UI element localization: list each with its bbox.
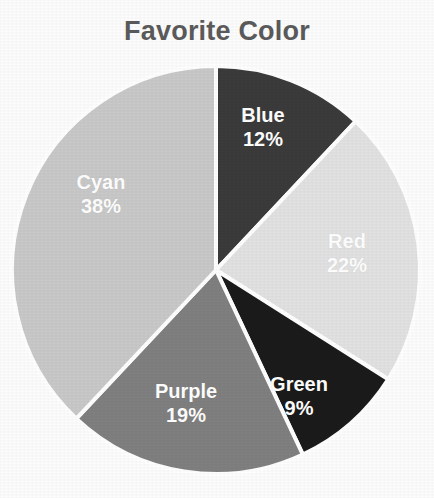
pie-label-cyan: Cyan38%: [77, 171, 126, 218]
pie-label-name: Red: [327, 230, 367, 254]
pie-label-percent: 22%: [327, 254, 367, 278]
pie-label-percent: 19%: [155, 404, 217, 428]
pie-label-name: Purple: [155, 380, 217, 404]
pie-label-green: Green9%: [270, 373, 328, 420]
pie-label-red: Red22%: [327, 230, 367, 277]
pie-chart-figure: Favorite Color Blue12%Red22%Green9%Purpl…: [0, 0, 434, 498]
pie-label-percent: 12%: [241, 128, 284, 152]
pie-label-percent: 38%: [77, 195, 126, 219]
pie-label-percent: 9%: [270, 397, 328, 421]
pie-label-blue: Blue12%: [241, 104, 284, 151]
pie-label-name: Blue: [241, 104, 284, 128]
pie-label-name: Green: [270, 373, 328, 397]
pie-label-name: Cyan: [77, 171, 126, 195]
pie-label-purple: Purple19%: [155, 380, 217, 427]
